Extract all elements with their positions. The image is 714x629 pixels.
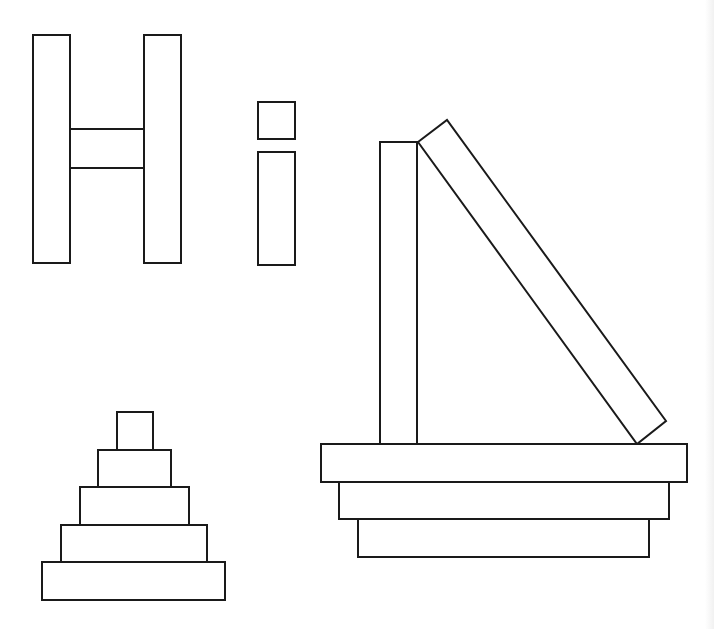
leaning-structure-group bbox=[321, 120, 687, 557]
i-dot bbox=[258, 102, 295, 139]
pyramid-tier-5 bbox=[42, 562, 225, 600]
pyramid-tier-1 bbox=[117, 412, 153, 450]
block-drawing bbox=[0, 0, 714, 629]
standing-block bbox=[380, 142, 417, 444]
scan-edge-shade bbox=[705, 0, 714, 629]
base-tier-top-outline bbox=[321, 444, 687, 482]
leaning-block bbox=[418, 120, 666, 444]
pyramid-tier-3 bbox=[80, 487, 189, 525]
pyramid-tier-2 bbox=[98, 450, 171, 487]
pyramid-group bbox=[42, 412, 225, 600]
h-left-bar bbox=[33, 35, 70, 263]
i-stem bbox=[258, 152, 295, 265]
letter-i-group bbox=[258, 102, 295, 265]
pyramid-tier-4 bbox=[61, 525, 207, 562]
h-right-bar bbox=[144, 35, 181, 263]
base-tier-bottom bbox=[358, 519, 649, 557]
letter-h-group bbox=[33, 35, 181, 263]
h-crossbar bbox=[70, 129, 144, 168]
base-tier-middle bbox=[339, 482, 669, 519]
